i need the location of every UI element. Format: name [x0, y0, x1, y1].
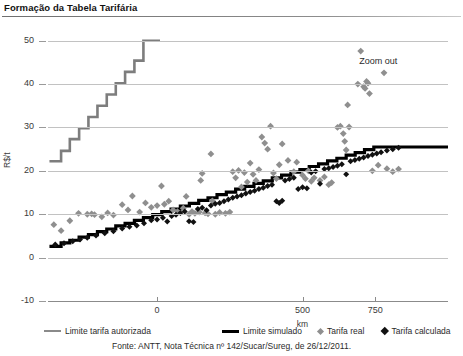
data-point [356, 156, 362, 162]
data-point [293, 159, 300, 166]
y-tick-label: 30 [8, 121, 34, 131]
data-point [341, 138, 348, 145]
series-scatter [50, 48, 402, 234]
data-point [234, 193, 240, 199]
data-point [197, 177, 204, 184]
title-divider [2, 16, 461, 17]
zoom-out-annotation: Zoom out [359, 56, 397, 66]
data-point [125, 206, 132, 213]
chart-series-layer [48, 32, 448, 301]
data-point [304, 185, 310, 191]
data-point [104, 210, 111, 217]
legend-line-marker [222, 330, 239, 333]
data-point [374, 150, 380, 156]
data-point [286, 176, 292, 182]
legend-label: Tarifa real [327, 326, 364, 336]
legend-item[interactable]: Limite tarifa autorizada [44, 326, 151, 336]
data-point [339, 161, 345, 167]
data-point [366, 90, 373, 97]
legend-item[interactable]: Tarifa real [318, 326, 364, 336]
x-tick-mark [375, 297, 376, 302]
data-point [119, 201, 126, 208]
chart-container: R$/t -1001020304050 0500750 km Zoom out [0, 20, 463, 320]
x-axis-line [48, 301, 448, 302]
y-tick-label: 0 [8, 252, 34, 262]
data-point [58, 227, 65, 234]
data-point [154, 202, 161, 209]
y-tick-mark [39, 301, 46, 302]
data-point [244, 179, 251, 186]
y-tick-mark [39, 84, 46, 85]
legend-label: Tarifa calculada [392, 326, 451, 336]
data-point [269, 182, 275, 188]
data-point [340, 130, 347, 137]
data-point [232, 174, 239, 181]
data-point [334, 163, 340, 169]
y-tick-mark [39, 127, 46, 128]
data-point [267, 123, 274, 130]
data-point [285, 157, 292, 164]
series-line [49, 41, 160, 162]
data-point [247, 160, 254, 167]
data-point [276, 161, 283, 168]
data-point [357, 48, 364, 55]
data-point [208, 151, 215, 158]
data-point [378, 149, 384, 155]
data-point [343, 171, 349, 177]
data-point [186, 218, 192, 224]
data-point [261, 140, 268, 147]
data-point [183, 193, 190, 200]
data-point [142, 200, 149, 207]
data-point [317, 181, 323, 187]
data-point [256, 166, 263, 173]
x-tick-label: 750 [357, 305, 393, 315]
data-point [154, 216, 160, 222]
data-point [348, 158, 354, 164]
data-point [330, 164, 336, 170]
data-point [264, 146, 271, 153]
y-tick-mark [39, 258, 46, 259]
data-point [279, 141, 286, 148]
gridline [48, 214, 448, 215]
data-point [361, 154, 367, 160]
data-point [352, 157, 358, 163]
data-point [343, 147, 350, 154]
legend-label: Limite tarifa autorizada [65, 326, 151, 336]
data-point [190, 219, 196, 225]
y-tick-label: 40 [8, 78, 34, 88]
legend-diamond-marker [381, 327, 389, 335]
legend-item[interactable]: Tarifa calculada [382, 326, 451, 336]
data-point [50, 221, 57, 228]
x-tick-mark [303, 297, 304, 302]
gridline [48, 171, 448, 172]
y-tick-label: -10 [8, 295, 34, 305]
data-point [375, 162, 382, 169]
gridline [48, 41, 448, 42]
x-tick-label: 0 [139, 305, 175, 315]
data-point [369, 152, 375, 158]
legend-label: Limite simulado [243, 326, 302, 336]
data-point [258, 134, 265, 141]
x-tick-mark [157, 297, 158, 302]
data-point [164, 219, 170, 225]
data-point [129, 193, 136, 200]
data-point [158, 183, 165, 190]
y-tick-label: 10 [8, 208, 34, 218]
data-point [250, 171, 257, 178]
y-tick-mark [39, 41, 46, 42]
gridline [48, 258, 448, 259]
page-title: Formação da Tabela Tarifária [4, 2, 137, 13]
screenshot-root: Formação da Tabela Tarifária R$/t -10010… [0, 0, 463, 356]
y-tick-mark [39, 171, 46, 172]
legend-line-marker [44, 330, 61, 332]
x-tick-label: 500 [285, 305, 321, 315]
data-point [247, 189, 253, 195]
data-point [381, 69, 388, 76]
plot-area [48, 32, 448, 301]
gridline [48, 127, 448, 128]
data-point [344, 101, 351, 108]
chart-legend: Limite tarifa autorizadaLimite simuladoT… [0, 324, 463, 340]
y-tick-label: 50 [8, 35, 34, 45]
legend-item[interactable]: Limite simulado [222, 326, 302, 336]
source-note: Fonte: ANTT, Nota Técnica nº 142/Sucar/S… [0, 341, 463, 351]
